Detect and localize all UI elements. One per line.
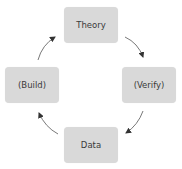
arrow-theory-to-verify bbox=[125, 37, 143, 57]
node-data-label: Data bbox=[81, 140, 101, 150]
node-build: (Build) bbox=[5, 67, 59, 103]
node-theory-label: Theory bbox=[76, 20, 106, 30]
arrow-data-to-build bbox=[39, 113, 58, 134]
node-data: Data bbox=[64, 127, 118, 163]
node-verify: (Verify) bbox=[122, 67, 176, 103]
node-build-label: (Build) bbox=[18, 80, 46, 90]
node-verify-label: (Verify) bbox=[134, 80, 165, 90]
node-theory: Theory bbox=[64, 7, 118, 43]
arrow-build-to-theory bbox=[38, 37, 55, 60]
arrow-verify-to-data bbox=[126, 111, 143, 133]
